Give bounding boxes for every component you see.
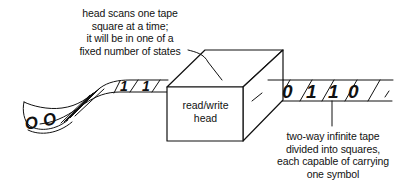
left-symbol-3: 1	[142, 78, 150, 94]
head-annotation-line: head scans one tape	[60, 7, 200, 20]
head-annotation-line: fixed number of states	[60, 45, 200, 58]
left-symbol-0: O	[23, 113, 40, 134]
tape-annotation-line: each capable of carrying	[262, 155, 404, 168]
tape-annotation: two-way infinite tape divided into squar…	[262, 130, 404, 180]
tape-annotation-line: two-way infinite tape	[262, 130, 404, 143]
turing-machine-diagram: O O 1 1 0 1 1 0 head scans one tape squa…	[0, 0, 409, 187]
left-symbol-1: O	[40, 109, 58, 131]
right-symbol-3: 0	[348, 81, 359, 102]
tape-annotation-line: divided into squares,	[262, 143, 404, 156]
right-symbol-2: 1	[328, 81, 339, 102]
head-box-label-line: read/write	[167, 99, 244, 112]
head-annotation-line: it will be in one of a	[60, 32, 200, 45]
head-annotation-line: square at a time;	[60, 20, 200, 33]
right-symbol-1: 1	[306, 81, 317, 102]
right-symbol-0: 0	[282, 81, 293, 102]
left-symbol-2: 1	[120, 78, 128, 94]
read-write-head-box	[167, 50, 283, 141]
head-box-label-line: head	[167, 112, 244, 125]
head-annotation: head scans one tape square at a time; it…	[60, 7, 200, 57]
tape-annotation-line: one symbol	[262, 168, 404, 181]
head-box-label: read/write head	[167, 99, 244, 124]
